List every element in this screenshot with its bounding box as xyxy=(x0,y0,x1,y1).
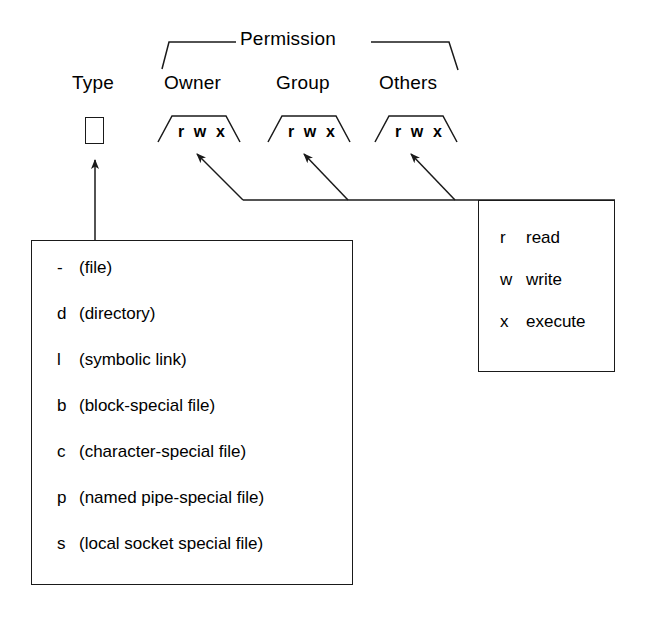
others-bits: r w x xyxy=(395,124,444,140)
list-item: b (block-special file) xyxy=(31,396,353,442)
file-type-code: b xyxy=(57,396,79,416)
file-type-code: c xyxy=(57,442,79,462)
permission-diagram: Permission Type Owner Group Others r w x… xyxy=(0,0,646,626)
file-type-desc: (file) xyxy=(79,258,112,278)
list-item: s (local socket special file) xyxy=(31,534,353,580)
legend-desc: read xyxy=(526,228,560,248)
file-type-desc: (symbolic link) xyxy=(79,350,187,370)
arrow-to-owner-rwx xyxy=(197,154,243,200)
file-type-desc: (directory) xyxy=(79,304,156,324)
group-bits: r w x xyxy=(288,124,337,140)
list-item: w write xyxy=(478,270,615,312)
file-type-desc: (local socket special file) xyxy=(79,534,263,554)
list-item: c (character-special file) xyxy=(31,442,353,488)
list-item: - (file) xyxy=(31,258,353,304)
type-placeholder-box xyxy=(85,117,104,144)
file-type-code: s xyxy=(57,534,79,554)
permission-brace-left xyxy=(162,42,236,69)
arrow-to-others-rwx xyxy=(411,154,455,200)
permission-heading: Permission xyxy=(240,29,336,48)
file-type-code: d xyxy=(57,304,79,324)
legend-code: x xyxy=(500,312,526,332)
file-type-desc: (character-special file) xyxy=(79,442,246,462)
list-item: l (symbolic link) xyxy=(31,350,353,396)
file-type-code: p xyxy=(57,488,79,508)
permission-legend-list: r read w write x execute xyxy=(478,200,615,372)
file-types-list: - (file) d (directory) l (symbolic link)… xyxy=(31,240,353,585)
group-heading: Group xyxy=(276,73,330,92)
file-type-code: - xyxy=(57,258,79,278)
file-type-desc: (block-special file) xyxy=(79,396,215,416)
arrow-to-group-rwx xyxy=(304,154,348,200)
legend-code: w xyxy=(500,270,526,290)
list-item: p (named pipe-special file) xyxy=(31,488,353,534)
list-item: r read xyxy=(478,228,615,270)
type-heading: Type xyxy=(72,73,114,92)
legend-code: r xyxy=(500,228,526,248)
legend-desc: execute xyxy=(526,312,586,332)
legend-desc: write xyxy=(526,270,562,290)
file-type-desc: (named pipe-special file) xyxy=(79,488,264,508)
others-heading: Others xyxy=(379,73,437,92)
owner-bits: r w x xyxy=(178,124,227,140)
permission-brace-right xyxy=(371,42,458,70)
owner-heading: Owner xyxy=(164,73,221,92)
file-type-code: l xyxy=(57,350,79,370)
list-item: d (directory) xyxy=(31,304,353,350)
list-item: x execute xyxy=(478,312,615,354)
